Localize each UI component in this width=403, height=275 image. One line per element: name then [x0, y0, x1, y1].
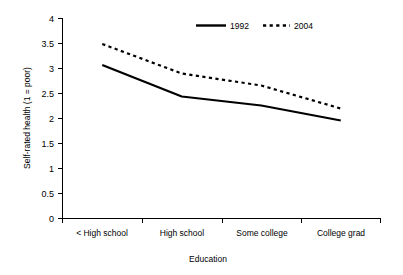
- x-category-label-3: College grad: [317, 228, 365, 238]
- y-tick-label-3p5: 3.5: [41, 39, 54, 49]
- x-category-label-1: High school: [160, 228, 205, 238]
- y-tick-label-2p5: 2.5: [41, 89, 54, 99]
- y-axis-title: Self-rated health (1 = poor): [22, 67, 32, 169]
- y-tick-label-2: 2: [49, 114, 54, 124]
- series-line-1992: [102, 65, 341, 121]
- y-tick-label-3: 3: [49, 64, 54, 74]
- series-line-2004: [102, 44, 341, 109]
- legend-label-1992: 1992: [230, 21, 249, 31]
- x-category-label-0: < High school: [76, 228, 128, 238]
- line-chart: 4 3.5 3 2.5 2 1.5 1 0.5 0 < High school …: [0, 0, 403, 275]
- y-tick-label-4: 4: [49, 14, 54, 24]
- chart-canvas: 4 3.5 3 2.5 2 1.5 1 0.5 0 < High school …: [0, 0, 403, 275]
- y-tick-label-1: 1: [49, 164, 54, 174]
- y-tick-label-0: 0: [49, 214, 54, 224]
- y-tick-label-0p5: 0.5: [41, 189, 54, 199]
- x-category-label-2: Some college: [236, 228, 288, 238]
- x-axis-title: Education: [189, 254, 227, 264]
- legend: 1992 2004: [196, 21, 313, 31]
- legend-label-2004: 2004: [294, 21, 313, 31]
- y-tick-label-1p5: 1.5: [41, 139, 54, 149]
